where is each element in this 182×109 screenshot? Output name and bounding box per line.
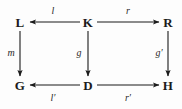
node-L: L xyxy=(16,16,25,29)
edge-label-g-prime: g′ xyxy=(155,48,162,58)
edge-label-r-prime: r′ xyxy=(125,93,131,103)
edge-label-l-prime: l′ xyxy=(51,93,56,103)
edge-label-r: r xyxy=(126,6,130,16)
edge-label-m: m xyxy=(7,48,14,58)
node-G: G xyxy=(15,79,25,92)
node-H: H xyxy=(163,79,173,92)
edge-label-g: g xyxy=(77,48,82,58)
node-R: R xyxy=(163,16,173,29)
node-D: D xyxy=(83,79,93,92)
node-K: K xyxy=(83,16,93,29)
commutative-diagram: L K R G D H l r m g g′ l′ r′ xyxy=(0,0,182,109)
edge-label-l: l xyxy=(52,6,55,16)
